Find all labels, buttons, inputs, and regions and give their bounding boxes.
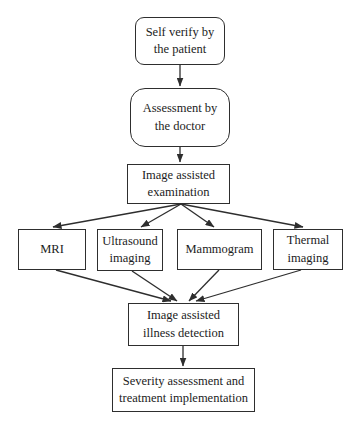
node-mammogram: Mammogram xyxy=(177,229,262,270)
node-label-line: Assessment by xyxy=(143,100,218,117)
node-label-line: treatment implementation xyxy=(119,390,248,407)
node-label-line: Image assisted xyxy=(142,167,215,184)
node-self-verify: Self verify by the patient xyxy=(135,17,225,65)
edge-examination-thermal xyxy=(181,204,303,227)
node-label-line: Self verify by xyxy=(146,24,215,41)
node-label-line: imaging xyxy=(288,250,329,267)
node-thermal: Thermal imaging xyxy=(273,229,343,270)
node-severity: Severity assessment and treatment implem… xyxy=(112,368,255,412)
node-label-line: Image assisted xyxy=(147,307,220,324)
node-label-line: Mammogram xyxy=(185,241,253,258)
node-label-line: imaging xyxy=(110,250,151,267)
node-label-line: Ultrasound xyxy=(102,233,158,250)
node-assessment: Assessment by the doctor xyxy=(130,88,230,147)
edge-thermal-detection xyxy=(196,270,301,301)
node-detection: Image assisted illness detection xyxy=(128,303,239,346)
edge-examination-mri xyxy=(53,204,181,227)
node-label-line: MRI xyxy=(40,241,64,258)
edge-mri-detection xyxy=(56,270,171,301)
edge-examination-mammogram xyxy=(181,204,214,227)
edge-mammogram-detection xyxy=(189,270,219,301)
node-label-line: Thermal xyxy=(287,232,329,249)
node-ultrasound: Ultrasound imaging xyxy=(97,229,163,271)
node-label-line: the doctor xyxy=(155,118,205,135)
node-label-line: Severity assessment and xyxy=(123,373,245,390)
node-examination: Image assisted examination xyxy=(127,164,230,204)
edge-examination-ultrasound xyxy=(141,204,181,227)
edge-ultrasound-detection xyxy=(132,271,177,301)
node-label-line: the patient xyxy=(154,41,206,58)
node-label-line: examination xyxy=(148,184,210,201)
node-mri: MRI xyxy=(18,229,86,270)
node-label-line: illness detection xyxy=(143,325,224,342)
flowchart-canvas: Self verify by the patient Assessment by… xyxy=(0,0,357,432)
